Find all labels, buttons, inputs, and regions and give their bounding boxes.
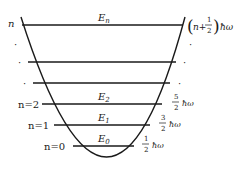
energy-symbol-E0: E0 [97,133,110,146]
svg-text:2: 2 [144,146,148,154]
harmonic-oscillator-diagram: n · · · n=2 n=1 n=0 En E2 E1 E0 ( n+ 1 2… [0,0,251,169]
quantum-label-n: n [8,18,14,29]
svg-text:ħω: ħω [169,120,181,129]
svg-text:2: 2 [161,125,165,133]
svg-text:3: 3 [161,114,165,122]
energy-symbol-En: En [97,12,110,25]
energy-value-2: 5 2 ħω [172,93,194,112]
svg-text:1: 1 [207,16,211,24]
quantum-label-n1: n=1 [28,120,49,131]
quantum-label-n0: n=0 [44,141,65,152]
ellipsis-dot-left-3: · [23,78,26,89]
svg-text:2: 2 [207,27,211,35]
energy-value-n: ( n+ 1 2 ) ħω [187,16,234,36]
svg-text:5: 5 [174,93,178,101]
svg-text:ħω: ħω [182,99,194,108]
energy-symbol-E2: E2 [97,91,110,104]
quantum-label-n2: n=2 [18,99,39,110]
ellipsis-dot-right-1: · [189,39,192,50]
svg-text:n+: n+ [193,22,206,32]
ellipsis-dot-right-3: · [178,78,181,89]
energy-value-1: 3 2 ħω [159,114,181,133]
ellipsis-dot-left-1: · [14,39,17,50]
svg-text:ħω: ħω [220,22,234,32]
svg-text:): ) [213,16,220,36]
svg-text:1: 1 [144,135,148,143]
svg-text:2: 2 [174,104,178,112]
energy-symbol-E1: E1 [97,112,110,125]
ellipsis-dot-right-2: · [183,57,186,68]
svg-text:ħω: ħω [152,141,164,150]
energy-value-0: 1 2 ħω [142,135,164,154]
ellipsis-dot-left-2: · [18,57,21,68]
